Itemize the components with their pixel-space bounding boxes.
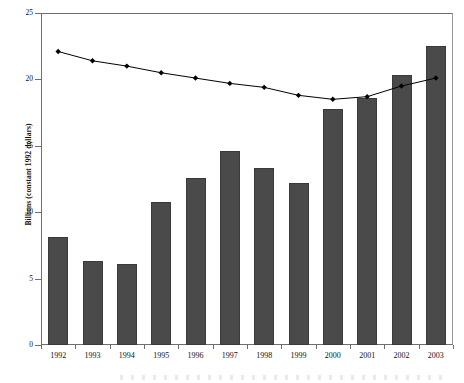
bar <box>426 46 446 345</box>
x-axis-tick <box>419 345 420 349</box>
bar <box>254 168 274 345</box>
y-axis-label: 25 <box>0 9 33 17</box>
bar <box>117 264 137 345</box>
x-axis-tick <box>178 345 179 349</box>
bar <box>392 75 412 345</box>
y-axis-label: 0 <box>0 341 33 349</box>
x-axis-tick <box>247 345 248 349</box>
x-axis-tick <box>213 345 214 349</box>
bar <box>289 183 309 345</box>
x-axis-tick <box>453 345 454 349</box>
y-axis-label: 10 <box>0 208 33 216</box>
x-axis-tick <box>281 345 282 349</box>
y-axis-label: 5 <box>0 275 33 283</box>
x-axis-tick <box>75 345 76 349</box>
x-axis-tick <box>144 345 145 349</box>
bar <box>220 151 240 345</box>
y-axis-title: Billions (constant 1992 dollars) <box>24 95 33 255</box>
bar <box>48 237 68 345</box>
y-axis-label: 20 <box>0 75 33 83</box>
y-axis-label: 15 <box>0 142 33 150</box>
bar <box>151 202 171 345</box>
bar <box>357 98 377 345</box>
chart-container: Billions (constant 1992 dollars) 0510152… <box>0 0 464 383</box>
x-axis-tick <box>41 345 42 349</box>
x-axis-tick <box>316 345 317 349</box>
x-axis-label: 2003 <box>416 352 456 360</box>
x-axis-tick <box>384 345 385 349</box>
page-footer-artifact <box>120 375 450 380</box>
x-axis-tick <box>110 345 111 349</box>
bar-series-layer <box>41 13 453 345</box>
bar <box>323 109 343 345</box>
x-axis-tick <box>350 345 351 349</box>
bar <box>83 261 103 345</box>
bar <box>186 178 206 345</box>
